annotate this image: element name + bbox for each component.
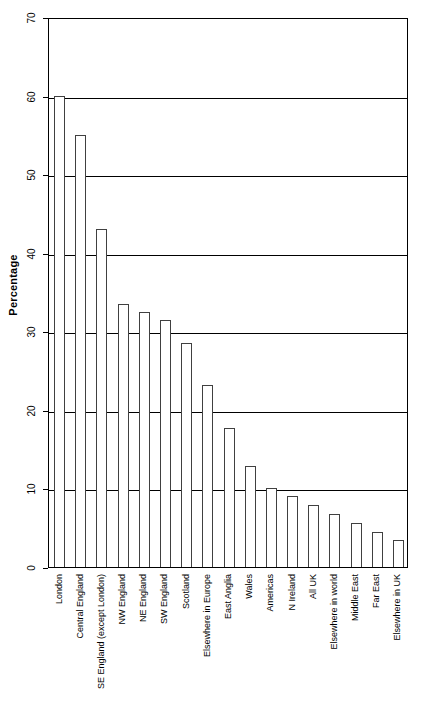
- x-axis-tick: Elsewhere in UK: [387, 570, 408, 707]
- y-axis-tick: 20: [21, 404, 43, 418]
- x-axis-tick-label: Wales: [245, 574, 254, 599]
- x-axis-tick: Wales: [239, 570, 260, 707]
- x-axis-tick: Far East: [366, 570, 387, 707]
- bar: [245, 466, 256, 567]
- x-axis-tick: All UK: [302, 570, 323, 707]
- bar: [329, 514, 340, 567]
- bar: [372, 532, 383, 567]
- x-axis-tick: Elsewhere in Europe: [196, 570, 217, 707]
- y-axis-tick: 40: [21, 247, 43, 261]
- bar: [308, 505, 319, 567]
- bar: [118, 304, 129, 567]
- x-axis-tick: Central England: [69, 570, 90, 707]
- bar: [351, 523, 362, 567]
- plot-area: [48, 18, 408, 568]
- y-axis-tick-label: 70: [27, 12, 37, 23]
- x-axis-tick-label: Elsewhere in UK: [393, 574, 402, 641]
- x-axis-tick-label: SW England: [160, 574, 169, 624]
- x-axis-tick-label: Middle East: [351, 574, 360, 621]
- bar: [75, 135, 86, 567]
- x-axis-tick-label: All UK: [308, 574, 317, 599]
- x-axis-tick-label: SE England (except London): [96, 574, 105, 689]
- x-axis-tick-labels: LondonCentral EnglandSE England (except …: [48, 570, 408, 707]
- y-axis-tick-label: 0: [27, 565, 37, 571]
- x-axis-tick-label: East Anglia: [223, 574, 232, 619]
- x-axis-tick: London: [48, 570, 69, 707]
- y-axis-tick: 0: [21, 561, 43, 575]
- y-axis-tick-label: 40: [27, 248, 37, 259]
- x-axis-tick: Scotland: [175, 570, 196, 707]
- x-axis-tick-label: Elsewhere in world: [329, 574, 338, 650]
- x-axis-tick-label: N Ireland: [287, 574, 296, 611]
- x-axis-tick-label: Far East: [372, 574, 381, 608]
- bar: [287, 496, 298, 567]
- y-axis-tick-label: 30: [27, 327, 37, 338]
- bars-group: [49, 19, 407, 567]
- bar: [54, 96, 65, 567]
- bar: [202, 385, 213, 567]
- x-axis-tick: NE England: [133, 570, 154, 707]
- y-axis-tick: 30: [21, 325, 43, 339]
- y-axis-title-text: Percentage: [7, 254, 19, 315]
- y-axis-tick: 70: [21, 11, 43, 25]
- bar: [160, 320, 171, 568]
- y-axis-tick: 60: [21, 90, 43, 104]
- bar-chart: Percentage 010203040506070 LondonCentral…: [0, 0, 425, 707]
- x-axis-tick: N Ireland: [281, 570, 302, 707]
- x-axis-tick-label: Americas: [266, 574, 275, 612]
- x-axis-tick-label: NE England: [139, 574, 148, 622]
- x-axis-tick-label: Elsewhere in Europe: [202, 574, 211, 657]
- y-axis-tick: 10: [21, 482, 43, 496]
- x-axis-tick: Elsewhere in world: [323, 570, 344, 707]
- x-axis-tick: Middle East: [344, 570, 365, 707]
- bar: [266, 488, 277, 567]
- y-axis-tick-label: 60: [27, 91, 37, 102]
- bar: [139, 312, 150, 567]
- bar: [181, 343, 192, 567]
- y-axis-tick: 50: [21, 168, 43, 182]
- x-axis-tick-label: London: [54, 574, 63, 604]
- y-axis-tick-label: 50: [27, 170, 37, 181]
- y-axis-tick-labels: 010203040506070: [26, 18, 48, 568]
- x-axis-tick: NW England: [112, 570, 133, 707]
- x-axis-tick: Americas: [260, 570, 281, 707]
- bar: [393, 540, 404, 567]
- bar: [224, 428, 235, 567]
- y-axis-tick-mark: [43, 568, 48, 569]
- x-axis-tick: SE England (except London): [90, 570, 111, 707]
- x-axis-tick: East Anglia: [217, 570, 238, 707]
- x-axis-tick: SW England: [154, 570, 175, 707]
- x-axis-tick-label: Central England: [75, 574, 84, 639]
- x-axis-tick-label: NW England: [118, 574, 127, 625]
- y-axis-tick-label: 20: [27, 405, 37, 416]
- bar: [96, 229, 107, 567]
- y-axis-tick-label: 10: [27, 484, 37, 495]
- x-axis-tick-label: Scotland: [181, 574, 190, 609]
